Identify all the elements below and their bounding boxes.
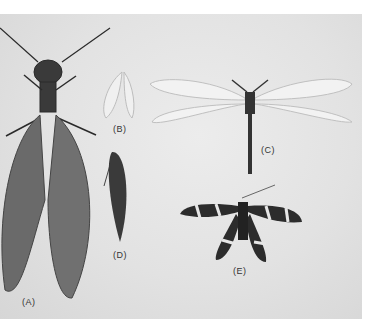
label-b: (B) (113, 124, 127, 134)
specimen-c (150, 79, 352, 174)
specimen-e (180, 185, 302, 262)
label-a: (A) (22, 297, 36, 307)
label-d: (D) (113, 250, 127, 260)
specimen-a (0, 28, 110, 298)
specimen-b (104, 72, 134, 118)
specimens-illustration (0, 0, 373, 332)
specimen-d (104, 152, 126, 242)
figure: (A) (B) (C) (D) (E) (0, 0, 373, 332)
label-c: (C) (261, 145, 275, 155)
label-e: (E) (233, 266, 247, 276)
